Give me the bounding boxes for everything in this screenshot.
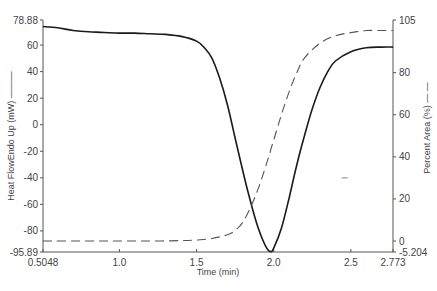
- y-left-tick-label: 0: [32, 119, 38, 130]
- y-right-tick-label: 105: [399, 15, 416, 26]
- y-right-axis-title: Percent Area (%) — —: [422, 82, 432, 174]
- heat-flow-line: [43, 27, 393, 252]
- y-right-tick-label: 0: [399, 236, 405, 247]
- percent-area-line: [43, 30, 393, 241]
- y-right-tick-label: -5.204: [399, 247, 428, 258]
- y-left-tick-label: -60: [24, 199, 39, 210]
- y-left-tick-label: 60: [27, 40, 39, 51]
- y-left-axis-title: Heat FlowEndo Up (mW) ———: [6, 71, 16, 201]
- y-right-tick-label: 60: [399, 109, 411, 120]
- y-left-tick-label: -80: [24, 225, 39, 236]
- y-left-tick-label: 78.88: [13, 15, 38, 26]
- y-left-tick-label: 20: [27, 93, 39, 104]
- x-tick-label: 2.773: [380, 257, 405, 268]
- x-tick-label: 0.5048: [28, 257, 59, 268]
- x-tick-label: 2.0: [267, 257, 281, 268]
- y-right-tick-label: 80: [399, 67, 411, 78]
- y-right-tick-label: 40: [399, 151, 411, 162]
- series-group: [43, 27, 393, 252]
- y-left-tick-label: 40: [27, 66, 39, 77]
- dsc-chart: 0.50481.01.52.02.52.77378.886040200-20-4…: [0, 0, 437, 291]
- x-tick-label: 2.5: [344, 257, 358, 268]
- axes: [40, 20, 396, 252]
- x-tick-label: 1.0: [112, 257, 126, 268]
- x-axis-title: Time (min): [197, 267, 240, 277]
- y-right-tick-label: 20: [399, 193, 411, 204]
- y-left-tick-label: -40: [24, 172, 39, 183]
- y-left-tick-label: -20: [24, 146, 39, 157]
- y-left-tick-label: -95.89: [10, 247, 39, 258]
